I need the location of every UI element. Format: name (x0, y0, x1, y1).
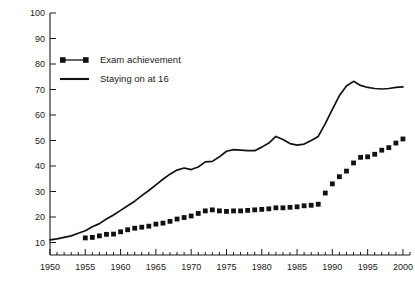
series-marker (125, 227, 130, 232)
series-marker (118, 229, 123, 234)
series-plot-area (50, 81, 405, 240)
legend-item: Staying on at 16 (60, 73, 169, 84)
series-marker (161, 221, 166, 226)
series-marker (323, 191, 328, 196)
series-marker (372, 152, 377, 157)
series-marker (302, 203, 307, 208)
series-marker (295, 204, 300, 209)
series-marker (337, 174, 342, 179)
series-marker (168, 219, 173, 224)
series-marker (266, 206, 271, 211)
series-1 (83, 137, 405, 241)
series-marker (146, 224, 151, 229)
x-axis-tick-label: 1975 (216, 262, 236, 272)
series-marker (97, 233, 102, 238)
series-line (50, 81, 403, 240)
series-marker (217, 208, 222, 213)
series-marker (379, 148, 384, 153)
series-marker (238, 208, 243, 213)
x-axis-tick-label: 1980 (252, 262, 272, 272)
series-marker (189, 214, 194, 219)
y-axis-tick-label: 50 (35, 136, 45, 146)
x-axis-tick-label: 1955 (75, 262, 95, 272)
series-marker (365, 154, 370, 159)
series-marker (273, 205, 278, 210)
series-marker (175, 217, 180, 222)
x-axis: 1950195519601965197019751980198519901995… (40, 249, 413, 272)
y-axis-tick-label: 60 (35, 110, 45, 120)
series-marker (358, 155, 363, 160)
y-axis-tick-label: 80 (35, 59, 45, 69)
chart-container: 102030405060708090100 195019551960196519… (0, 0, 415, 283)
y-axis-tick-label: 20 (35, 212, 45, 222)
series-2 (50, 81, 403, 240)
y-axis-tick-label: 100 (30, 8, 45, 18)
series-marker (111, 232, 116, 237)
series-marker (203, 208, 208, 213)
legend-label: Exam achievement (100, 54, 181, 65)
series-marker (401, 137, 406, 142)
x-axis-tick-label: 1960 (111, 262, 131, 272)
series-marker (196, 211, 201, 216)
series-marker (153, 222, 158, 227)
x-axis-tick-label: 1985 (287, 262, 307, 272)
legend-square-marker (83, 57, 89, 63)
series-marker (309, 203, 314, 208)
series-marker (351, 161, 356, 166)
series-marker (259, 207, 264, 212)
x-axis-tick-label: 1970 (181, 262, 201, 272)
x-axis-tick-label: 2000 (393, 262, 413, 272)
series-marker (231, 208, 236, 213)
legend-square-marker (60, 57, 66, 63)
series-marker (330, 181, 335, 186)
line-chart: 102030405060708090100 195019551960196519… (0, 0, 415, 283)
series-marker (83, 236, 88, 241)
series-marker (393, 141, 398, 146)
x-axis-tick-label: 1965 (146, 262, 166, 272)
series-marker (288, 205, 293, 210)
series-marker (90, 235, 95, 240)
series-marker (210, 207, 215, 212)
y-axis-tick-label: 30 (35, 187, 45, 197)
y-axis-tick-label: 10 (35, 238, 45, 248)
y-axis-tick-label: 90 (35, 34, 45, 44)
series-marker (104, 232, 109, 237)
legend-label: Staying on at 16 (100, 73, 169, 84)
series-marker (316, 202, 321, 207)
series-marker (245, 208, 250, 213)
x-axis-tick-label: 1950 (40, 262, 60, 272)
series-marker (386, 145, 391, 150)
series-marker (182, 215, 187, 220)
series-marker (281, 205, 286, 210)
series-marker (139, 225, 144, 230)
y-axis: 102030405060708090100 (30, 8, 56, 248)
legend-item: Exam achievement (60, 54, 181, 65)
series-marker (252, 207, 257, 212)
series-marker (344, 169, 349, 174)
x-axis-tick-label: 1995 (358, 262, 378, 272)
series-marker (132, 226, 137, 231)
chart-legend: Exam achievementStaying on at 16 (60, 54, 181, 84)
series-marker (224, 209, 229, 214)
x-axis-tick-label: 1990 (322, 262, 342, 272)
y-axis-tick-label: 40 (35, 161, 45, 171)
y-axis-tick-label: 70 (35, 85, 45, 95)
